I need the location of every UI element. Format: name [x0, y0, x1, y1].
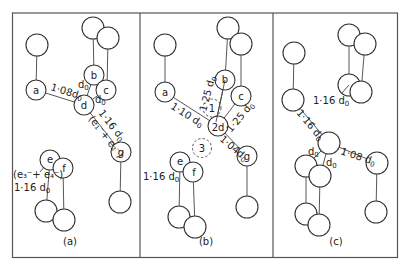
atom-circle — [309, 165, 331, 187]
atom-circle — [318, 132, 340, 154]
atom-label: c — [238, 91, 244, 102]
panel-a: a b c d g e f 1·08d0 d0 d0 1·16 d0 (e₁⁻+… — [13, 17, 131, 247]
atom-label: e — [47, 154, 53, 165]
figure-diagram: a b c d g e f 1·08d0 d0 d0 1·16 d0 (e₁⁻+… — [0, 0, 407, 268]
distance-label: 1·16 d — [313, 95, 345, 106]
atom-circle — [26, 34, 48, 56]
atom-circle — [282, 89, 304, 111]
atom-circle — [236, 196, 258, 218]
distance-label: 1·10 d — [169, 100, 202, 126]
atom-circle — [53, 209, 75, 231]
site-label: 3 — [199, 143, 205, 154]
svg-text:1·08 d0: 1·08 d0 — [339, 145, 378, 169]
panel-caption: (b) — [199, 236, 213, 247]
svg-text:1·16 d0: 1·16 d0 — [293, 107, 326, 143]
atom-circle — [109, 191, 131, 213]
distance-label: 1·16 d — [143, 171, 175, 182]
atom-label: a — [162, 87, 168, 98]
svg-text:1·16 d0: 1·16 d0 — [143, 171, 179, 184]
distance-label: 1·08 d — [339, 145, 373, 165]
svg-text:1·16 d0: 1·16 d0 — [313, 95, 349, 108]
atom-label: c — [103, 85, 109, 96]
svg-text:1·25 d0: 1·25 d0 — [197, 75, 219, 113]
atom-label: a — [33, 85, 39, 96]
svg-text:1·16 d0: 1·16 d0 — [14, 182, 50, 195]
panel-caption: (c) — [329, 236, 342, 247]
atom-circle — [354, 33, 376, 55]
orbital-label: (e₃⁻+ e₄⁻) — [13, 169, 63, 180]
atom-label: 2d — [212, 122, 225, 133]
atom-circle — [283, 42, 305, 64]
atom-circle — [350, 81, 372, 103]
atom-circle — [308, 214, 330, 236]
atom-circle — [365, 201, 387, 223]
atom-circle — [154, 34, 176, 56]
distance-label: 1·16 d — [14, 182, 46, 193]
atom-circle — [230, 33, 252, 55]
atom-circle — [97, 27, 119, 49]
atom-label: b — [91, 70, 97, 81]
distance-label: 1·08d — [49, 81, 80, 100]
panel-c: 1·16 d0 1·16 d0 d0 d0 1·08 d0 (c) — [282, 24, 388, 247]
panel-caption: (a) — [63, 236, 77, 247]
atom-label: f — [192, 167, 196, 178]
atom-label: e — [177, 156, 183, 167]
atom-label: b — [222, 74, 228, 85]
panel-b: a b c 1 2d 3 g e f 1·10 d0 1·25 d0 1·25 … — [143, 17, 258, 247]
atom-label: d — [81, 100, 87, 111]
atom-circle — [184, 216, 206, 238]
